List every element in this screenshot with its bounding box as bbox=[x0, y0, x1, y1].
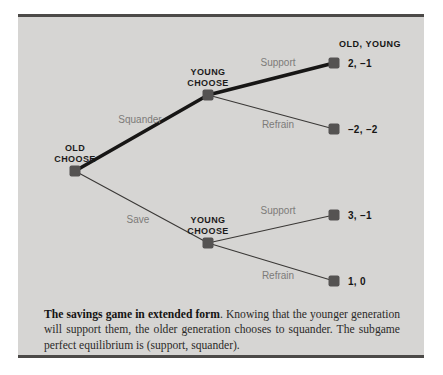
node-label-old_choose: OLD CHOOSE bbox=[54, 143, 95, 164]
caption-title: The savings game in extended form bbox=[44, 308, 220, 321]
figure-panel: SquanderSaveSupportRefrainSupportRefrain… bbox=[18, 14, 424, 358]
edge-label-squander: Squander bbox=[118, 114, 161, 125]
figure-caption: The savings game in extended form. Knowi… bbox=[44, 307, 400, 353]
figure-root: SquanderSaveSupportRefrainSupportRefrain… bbox=[0, 0, 443, 375]
tree-node-terminal_refrain_bottom bbox=[329, 276, 340, 287]
payoff_save_support: 3, –1 bbox=[348, 210, 372, 221]
tree-node-terminal_support_top bbox=[329, 58, 340, 69]
payoff_squander_support: 2, –1 bbox=[348, 58, 372, 69]
edge-label-save: Save bbox=[127, 214, 150, 225]
edge-label-support_bottom: Support bbox=[260, 205, 295, 216]
payoff-column-header: OLD, YOUNG bbox=[339, 39, 401, 49]
payoff_squander_refrain: –2, –2 bbox=[348, 124, 378, 135]
tree-node-terminal_support_bottom bbox=[329, 210, 340, 221]
edge-label-support_top: Support bbox=[260, 57, 295, 68]
game-tree: SquanderSaveSupportRefrainSupportRefrain… bbox=[18, 17, 424, 289]
edge-label-refrain_top: Refrain bbox=[262, 119, 294, 130]
tree-node-terminal_refrain_top bbox=[329, 124, 340, 135]
payoff_save_refrain: 1, 0 bbox=[348, 276, 366, 287]
edge-label-refrain_bottom: Refrain bbox=[262, 270, 294, 281]
node-label-young_choose_top: YOUNG CHOOSE bbox=[187, 67, 228, 88]
tree-node-young_choose_bottom bbox=[203, 238, 214, 249]
node-label-young_choose_bottom: YOUNG CHOOSE bbox=[187, 215, 228, 236]
tree-node-old_choose bbox=[70, 166, 81, 177]
tree-node-young_choose_top bbox=[203, 90, 214, 101]
